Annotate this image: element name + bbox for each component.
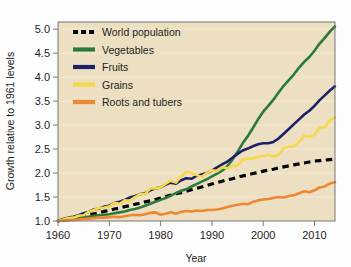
chart-figure: 196019701980199020002010 1.01.52.02.53.0…	[0, 0, 351, 267]
y-axis-ticks	[53, 29, 58, 221]
y-tick-label: 1.5	[35, 191, 50, 203]
x-axis-tick-labels: 196019701980199020002010	[46, 229, 327, 241]
x-axis-title: Year	[185, 252, 207, 264]
x-axis-ticks	[58, 221, 314, 226]
y-tick-label: 4.5	[35, 47, 50, 59]
y-tick-label: 2.0	[35, 167, 50, 179]
y-tick-label: 5.0	[35, 23, 50, 35]
legend-label-fruits: Fruits	[102, 61, 128, 73]
x-tick-label: 1960	[46, 229, 70, 241]
legend-label-grains: Grains	[102, 79, 133, 91]
y-tick-label: 4.0	[35, 71, 50, 83]
growth-relative-line-chart: 196019701980199020002010 1.01.52.02.53.0…	[0, 0, 351, 267]
y-axis-title: Growth relative to 1961 levels	[4, 52, 16, 190]
y-tick-label: 1.0	[35, 215, 50, 227]
legend-label-world-population: World population	[102, 26, 181, 38]
legend-label-roots-and-tubers: Roots and tubers	[102, 96, 182, 108]
x-tick-label: 2010	[302, 229, 326, 241]
plot-background	[58, 22, 335, 221]
x-tick-label: 1970	[97, 229, 121, 241]
y-axis-tick-labels: 1.01.52.02.53.03.54.04.55.0	[35, 23, 50, 227]
y-tick-label: 3.5	[35, 95, 50, 107]
y-tick-label: 3.0	[35, 119, 50, 131]
x-tick-label: 2000	[251, 229, 275, 241]
x-tick-label: 1980	[148, 229, 172, 241]
y-tick-label: 2.5	[35, 143, 50, 155]
legend-label-vegetables: Vegetables	[102, 44, 154, 56]
x-tick-label: 1990	[200, 229, 224, 241]
